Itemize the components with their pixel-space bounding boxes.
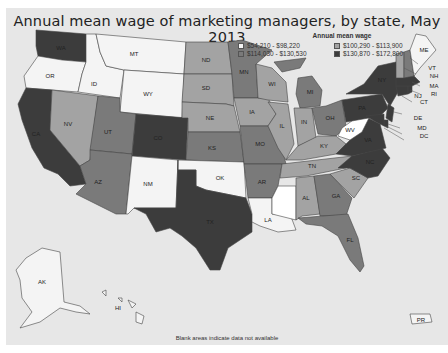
state-CT[interactable] bbox=[396, 86, 408, 96]
legend-swatch bbox=[238, 51, 244, 57]
label-NC: NC bbox=[366, 159, 375, 165]
label-PA: PA bbox=[358, 105, 366, 111]
label-MD: MD bbox=[417, 125, 427, 131]
legend-item-bin3: $114,030 - $130,530 bbox=[238, 50, 334, 57]
label-CT: CT bbox=[420, 99, 428, 105]
label-SD: SD bbox=[202, 85, 211, 91]
label-SC: SC bbox=[352, 175, 361, 181]
us-choropleth-map: WA OR CA ID NV MT WY UT AZ CO NM ND SD N… bbox=[6, 8, 448, 345]
label-WA: WA bbox=[56, 45, 65, 51]
label-TN: TN bbox=[308, 163, 316, 169]
legend-swatch bbox=[238, 43, 244, 49]
label-MO: MO bbox=[255, 141, 265, 147]
label-CA: CA bbox=[32, 131, 40, 137]
state-MS[interactable] bbox=[272, 186, 296, 220]
legend-label: $100,290 - $113,900 bbox=[343, 42, 403, 49]
label-FL: FL bbox=[346, 237, 354, 243]
label-OK: OK bbox=[216, 175, 225, 181]
label-MT: MT bbox=[130, 51, 139, 57]
label-DC: DC bbox=[420, 133, 429, 139]
legend-label: $114,030 - $130,530 bbox=[247, 50, 307, 57]
state-KY[interactable] bbox=[286, 136, 346, 160]
legend-item-bin4: $130,870 - $172,800 bbox=[334, 50, 444, 57]
label-NY: NY bbox=[378, 77, 386, 83]
label-KY: KY bbox=[320, 143, 328, 149]
label-VA: VA bbox=[364, 137, 372, 143]
label-IN: IN bbox=[301, 119, 307, 125]
state-OR[interactable] bbox=[24, 56, 86, 92]
label-PR: PR bbox=[417, 317, 426, 323]
label-AR: AR bbox=[258, 179, 267, 185]
state-AK[interactable] bbox=[16, 248, 90, 328]
label-AZ: AZ bbox=[94, 179, 102, 185]
label-WV: WV bbox=[345, 127, 355, 133]
legend-item-bin2: $100,290 - $113,900 bbox=[334, 42, 444, 49]
legend-title: Annual mean wage bbox=[234, 32, 448, 39]
label-HI: HI bbox=[115, 305, 121, 311]
label-OH: OH bbox=[326, 115, 335, 121]
label-TX: TX bbox=[206, 219, 214, 225]
label-NE: NE bbox=[206, 115, 214, 121]
state-HI[interactable] bbox=[102, 290, 144, 324]
footnote: Blank areas indicate data not available bbox=[6, 335, 448, 341]
legend-item-bin1: $54,210 - $98,220 bbox=[238, 42, 334, 49]
label-NM: NM bbox=[143, 181, 152, 187]
legend: Annual mean wage $54,210 - $98,220 $100,… bbox=[234, 32, 448, 57]
label-ID: ID bbox=[91, 81, 98, 87]
label-AK: AK bbox=[38, 279, 46, 285]
label-MN: MN bbox=[239, 69, 248, 75]
label-LA: LA bbox=[264, 217, 271, 223]
label-VT: VT bbox=[428, 65, 436, 71]
label-WY: WY bbox=[143, 91, 153, 97]
label-NH: NH bbox=[430, 73, 439, 79]
label-GA: GA bbox=[332, 193, 341, 199]
label-IA: IA bbox=[249, 109, 255, 115]
label-UT: UT bbox=[104, 129, 112, 135]
label-WI: WI bbox=[268, 81, 276, 87]
label-MA: MA bbox=[430, 83, 439, 89]
label-OR: OR bbox=[46, 73, 56, 79]
legend-swatch bbox=[334, 51, 340, 57]
label-DE: DE bbox=[414, 115, 422, 121]
legend-label: $130,870 - $172,800 bbox=[343, 50, 403, 57]
label-AL: AL bbox=[302, 195, 310, 201]
map-frame: Annual mean wage of marketing managers, … bbox=[6, 8, 448, 345]
label-MI: MI bbox=[307, 89, 314, 95]
label-ND: ND bbox=[202, 57, 211, 63]
label-RI: RI bbox=[431, 91, 437, 97]
label-IL: IL bbox=[279, 123, 285, 129]
legend-label: $54,210 - $98,220 bbox=[247, 42, 300, 49]
state-FL[interactable] bbox=[298, 214, 364, 272]
label-KS: KS bbox=[208, 145, 216, 151]
label-NV: NV bbox=[64, 121, 72, 127]
legend-swatch bbox=[334, 43, 340, 49]
label-CO: CO bbox=[154, 135, 163, 141]
